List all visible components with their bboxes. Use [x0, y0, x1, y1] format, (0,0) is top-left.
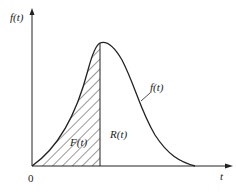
curve-label-leader: [141, 93, 150, 101]
unshaded-region-label: R(t): [109, 128, 127, 141]
y-axis-label: f(t): [10, 11, 24, 24]
x-axis-arrow-icon: [225, 164, 233, 169]
reliability-diagram: f(t) f(t) F(t) R(t) 0 t: [0, 0, 236, 192]
origin-label: 0: [28, 172, 34, 184]
y-axis-arrow-icon: [30, 8, 35, 15]
curve-label: f(t): [150, 81, 164, 94]
x-axis-label: t: [220, 170, 224, 182]
shaded-region-label: F(t): [69, 136, 87, 149]
